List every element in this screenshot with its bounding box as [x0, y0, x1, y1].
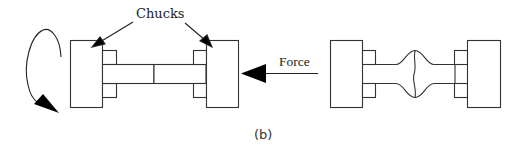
chuck-b-upper-jaw — [455, 51, 468, 65]
chuck-a-upper-jaw — [363, 51, 376, 65]
force-arrowhead-icon — [241, 64, 266, 83]
force-label: Force — [279, 54, 310, 70]
chucks-label: Chucks — [136, 6, 185, 21]
chuck-b-block — [468, 41, 501, 108]
right-assembly — [331, 41, 501, 108]
chucks-leader-right — [185, 23, 205, 40]
specimen-left-half — [103, 65, 155, 84]
specimen-right-half — [154, 65, 206, 84]
right-chuck-lower-jaw — [194, 84, 207, 98]
chucks-leader-left — [100, 22, 133, 42]
chuck-a-block — [331, 41, 363, 108]
figure-caption: (b) — [254, 127, 272, 142]
rotation-arrowhead-icon — [34, 94, 59, 113]
right-chuck-block — [207, 41, 239, 108]
chucks-leader-arrows — [92, 22, 212, 47]
left-chuck-upper-jaw — [103, 51, 117, 65]
left-chuck-lower-jaw — [103, 84, 117, 98]
rotation-arrow — [26, 29, 61, 113]
rotation-arc — [26, 29, 61, 102]
left-chuck-block — [71, 41, 103, 108]
diagram-figure: Chucks Force (b) — [0, 0, 529, 153]
left-assembly — [71, 41, 239, 108]
right-chuck-upper-jaw — [194, 51, 207, 65]
chuck-a-lower-jaw — [363, 84, 376, 98]
chuck-b-lower-jaw — [455, 84, 468, 98]
